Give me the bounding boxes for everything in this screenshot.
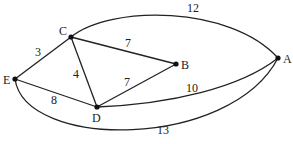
weight-E-C: 3 xyxy=(35,45,41,59)
node-E xyxy=(12,76,17,81)
node-A xyxy=(275,55,280,60)
weight-E-A: 13 xyxy=(157,123,169,137)
weight-D-B: 7 xyxy=(124,75,130,89)
node-C xyxy=(68,34,73,39)
node-label-B: B xyxy=(181,58,189,72)
node-D xyxy=(94,104,99,109)
node-label-C: C xyxy=(59,24,67,38)
weight-D-A: 10 xyxy=(186,81,198,95)
node-label-A: A xyxy=(283,52,292,66)
weight-E-D: 8 xyxy=(51,93,57,107)
edge-E-C xyxy=(15,37,71,79)
node-label-E: E xyxy=(3,73,10,87)
weight-C-A: 12 xyxy=(187,1,199,15)
weighted-graph: A B C D E 3 7 4 8 7 12 10 13 xyxy=(0,0,293,144)
weight-C-D: 4 xyxy=(73,67,79,81)
edge-C-A xyxy=(71,15,278,58)
edge-C-B xyxy=(71,37,176,64)
weight-C-B: 7 xyxy=(125,36,131,50)
node-B xyxy=(173,61,178,66)
node-label-D: D xyxy=(92,111,101,125)
